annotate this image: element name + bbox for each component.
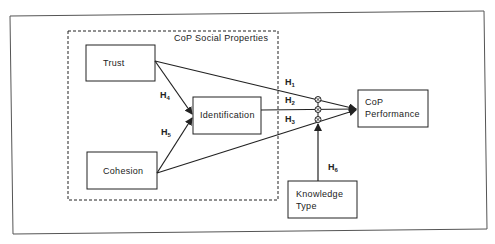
h5-subscript: 5 [168, 132, 171, 138]
knowledge-label-line1: Knowledge [296, 188, 343, 200]
performance-label-line1: CoP [365, 96, 383, 108]
h6-subscript: 6 [335, 167, 338, 173]
h2-label: H2 [285, 95, 295, 106]
moderation-node-h3-icon [315, 117, 321, 123]
h4-subscript: 4 [167, 95, 170, 101]
trust-label: Trust [103, 57, 125, 69]
h5-label: H5 [161, 127, 171, 138]
h2-arrow [261, 109, 356, 110]
knowledge-label-line2: Type [296, 200, 317, 212]
h1-label: H1 [285, 77, 295, 88]
moderation-node-h1-icon [315, 97, 321, 103]
moderation-node-h2-icon [315, 107, 321, 113]
cohesion-label: Cohesion [103, 165, 143, 177]
performance-label-line2: Performance [365, 108, 420, 120]
h1-subscript: 1 [292, 82, 295, 88]
h3-label: H3 [285, 114, 295, 125]
h3-subscript: 3 [292, 119, 295, 125]
group-title: CoP Social Properties [174, 33, 268, 43]
identification-label: Identification [200, 109, 255, 121]
h4-label: H4 [160, 90, 170, 101]
h2-subscript: 2 [292, 100, 295, 106]
h6-label: H6 [328, 162, 338, 173]
